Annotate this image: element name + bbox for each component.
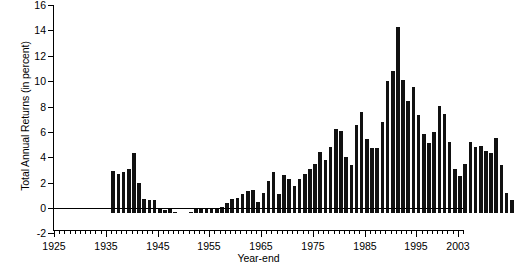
x-axis-tick-label: 1985 (340, 240, 390, 252)
bar (386, 81, 390, 213)
bar (334, 129, 338, 213)
x-axis-minor-tick (95, 231, 96, 234)
bar (148, 200, 152, 213)
bar (142, 199, 146, 213)
x-axis-title: Year-end (54, 252, 463, 264)
bar (381, 122, 385, 213)
bar (122, 172, 126, 213)
bar (375, 148, 379, 213)
x-axis-major-tick (458, 231, 459, 237)
x-axis-major-tick (416, 231, 417, 237)
bar (344, 157, 348, 213)
x-axis-major-tick (313, 231, 314, 237)
bar (194, 209, 198, 213)
x-axis-minor-tick (370, 231, 371, 234)
bar (272, 172, 276, 213)
x-axis-minor-tick (111, 231, 112, 234)
bar (484, 151, 488, 213)
x-axis-minor-tick (220, 231, 221, 234)
plot-area (54, 5, 463, 208)
bar (308, 169, 312, 213)
bar (236, 198, 240, 213)
bar (432, 132, 436, 213)
x-axis-major-tick (106, 231, 107, 237)
bar (293, 186, 297, 213)
y-axis-tick-label: 14 (6, 25, 46, 35)
x-axis-minor-tick (318, 231, 319, 234)
x-axis-minor-tick (463, 231, 464, 234)
x-axis-minor-tick (339, 231, 340, 234)
x-axis-tick-label: 1955 (184, 240, 234, 252)
bar (438, 106, 442, 213)
x-axis-minor-tick (173, 231, 174, 234)
bar (153, 200, 157, 213)
x-axis-minor-tick (334, 231, 335, 234)
bar (510, 200, 514, 213)
x-axis-minor-tick (85, 231, 86, 234)
x-axis-minor-tick (178, 231, 179, 234)
x-axis-minor-tick (308, 231, 309, 234)
bar (474, 147, 478, 213)
x-axis-minor-tick (271, 231, 272, 234)
x-axis-minor-tick (277, 231, 278, 234)
bar (463, 164, 467, 213)
x-axis-minor-tick (152, 231, 153, 234)
y-axis-tick-label: -2 (6, 228, 46, 238)
x-axis-minor-tick (391, 231, 392, 234)
bar (505, 193, 509, 213)
x-axis-minor-tick (375, 231, 376, 234)
bar (329, 147, 333, 213)
bar (443, 114, 447, 213)
bar (355, 125, 359, 213)
bar (262, 193, 266, 213)
x-axis-minor-tick (225, 231, 226, 234)
bar (313, 164, 317, 213)
zero-baseline (54, 208, 463, 209)
x-axis-minor-tick (230, 231, 231, 234)
bar (448, 142, 452, 213)
x-axis-minor-tick (323, 231, 324, 234)
bar (453, 169, 457, 213)
y-axis-tick-label: 0 (6, 203, 46, 213)
x-axis-minor-tick (396, 231, 397, 234)
y-axis-tick-label: 2 (6, 178, 46, 188)
x-axis-minor-tick (385, 231, 386, 234)
x-axis-major-tick (158, 231, 159, 237)
x-axis-minor-tick (344, 231, 345, 234)
x-axis-tick-label: 1935 (81, 240, 131, 252)
x-axis-minor-tick (256, 231, 257, 234)
bar (339, 131, 343, 213)
y-axis-tick-label: 6 (6, 127, 46, 137)
bar (168, 209, 172, 213)
bar (127, 169, 131, 213)
x-axis-minor-tick (189, 231, 190, 234)
x-axis-minor-tick (246, 231, 247, 234)
x-axis-minor-tick (214, 231, 215, 234)
x-axis-minor-tick (328, 231, 329, 234)
bar (241, 194, 245, 213)
bar (246, 191, 250, 213)
bar (406, 101, 410, 213)
x-axis-minor-tick (183, 231, 184, 234)
x-axis-minor-tick (126, 231, 127, 234)
x-axis-major-tick (365, 231, 366, 237)
x-axis-minor-tick (59, 231, 60, 234)
x-axis-minor-tick (194, 231, 195, 234)
bar (500, 165, 504, 213)
x-axis-minor-tick (147, 231, 148, 234)
x-axis-minor-tick (354, 231, 355, 234)
x-axis-tick-label: 1975 (288, 240, 338, 252)
bar (318, 152, 322, 213)
x-axis-minor-tick (199, 231, 200, 234)
bar (494, 138, 498, 213)
x-axis-minor-tick (251, 231, 252, 234)
bar (391, 71, 395, 213)
x-axis-minor-tick (137, 231, 138, 234)
bar (427, 143, 431, 213)
bar (324, 160, 328, 213)
x-axis-minor-tick (411, 231, 412, 234)
bar (111, 171, 115, 213)
x-axis-tick-label: 2003 (433, 240, 483, 252)
y-axis-tick-label: 16 (6, 0, 46, 10)
